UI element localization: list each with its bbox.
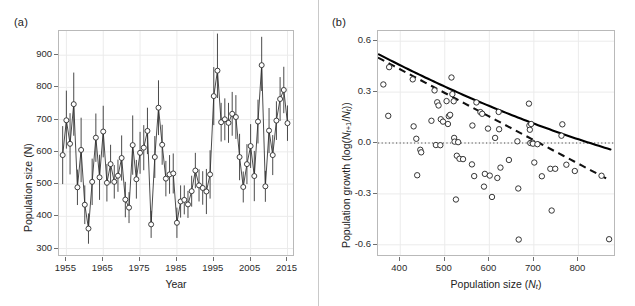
panel-b-xaxis-title: Population size (Nt): [377, 278, 615, 291]
panel-b-plot-svg: [378, 31, 614, 255]
panel-b: (b) -0.6-0.30.00.30.6 400500600700800 Po…: [320, 0, 635, 306]
panel-a-xaxis-title: Year: [58, 278, 294, 290]
panel-a-ytick-mark: [54, 54, 58, 55]
panel-a-ytick-mark: [54, 183, 58, 184]
panel-b-label: (b): [332, 16, 346, 28]
panel-a-label: (a): [14, 16, 28, 28]
panel-b-xtick-400: 400: [379, 262, 419, 273]
panel-b-ytick-mark: [373, 244, 377, 245]
panel-a-xtick-1995: 1995: [193, 262, 233, 273]
panel-a-xtick-1985: 1985: [156, 262, 196, 273]
panel-a-xtick-mark: [102, 257, 103, 261]
panel-a-ytick-mark: [54, 151, 58, 152]
panel-a-yaxis-title: Population size (N): [22, 143, 34, 232]
panel-a-ytick-800: 800: [26, 80, 52, 91]
panel-a-plot-area: [58, 30, 294, 256]
panel-b-ytick-mark: [373, 193, 377, 194]
panel-a-ytick-300: 300: [26, 242, 52, 253]
panel-b-xtick-mark: [399, 257, 400, 261]
panel-a-xtick-mark: [139, 257, 140, 261]
panel-a-ytick-mark: [54, 119, 58, 120]
panel-divider: [318, 0, 319, 306]
panel-a-xtick-mark: [176, 257, 177, 261]
panel-b-xtick-500: 500: [424, 262, 464, 273]
panel-a-xtick-mark: [65, 257, 66, 261]
panel-a-xtick-1965: 1965: [82, 262, 122, 273]
panel-a-xtick-mark: [286, 257, 287, 261]
panel-a-plot-svg: [59, 31, 293, 255]
panel-b-xtick-mark: [488, 257, 489, 261]
panel-b-ytick-0.6: 0.6: [342, 34, 371, 45]
panel-a: (a) 300400500600700800900 19551965197519…: [0, 0, 320, 306]
panel-a-xtick-2005: 2005: [230, 262, 270, 273]
panel-a-ytick-700: 700: [26, 113, 52, 124]
panel-a-xtick-mark: [213, 257, 214, 261]
panel-b-xtick-800: 800: [557, 262, 597, 273]
panel-b-xtick-mark: [533, 257, 534, 261]
panel-b-xtick-mark: [577, 257, 578, 261]
panel-b-ytick-mark: [373, 40, 377, 41]
panel-a-ytick-mark: [54, 215, 58, 216]
panel-a-xtick-1955: 1955: [45, 262, 85, 273]
panel-a-xtick-2015: 2015: [266, 262, 306, 273]
panel-b-xtick-700: 700: [513, 262, 553, 273]
panel-b-xtick-600: 600: [468, 262, 508, 273]
panel-a-xtick-1975: 1975: [119, 262, 159, 273]
panel-b-yaxis-title: Population growth (log(Nt+1/Nt)): [340, 102, 353, 248]
panel-b-ytick-mark: [373, 91, 377, 92]
figure-container: (a) 300400500600700800900 19551965197519…: [0, 0, 635, 306]
panel-a-ytick-mark: [54, 86, 58, 87]
panel-b-ytick-mark: [373, 142, 377, 143]
panel-b-plot-area: [377, 30, 615, 256]
panel-a-xtick-mark: [250, 257, 251, 261]
panel-b-xtick-mark: [444, 257, 445, 261]
panel-b-ytick-0.3: 0.3: [342, 85, 371, 96]
panel-a-ytick-mark: [54, 248, 58, 249]
panel-a-ytick-900: 900: [26, 48, 52, 59]
